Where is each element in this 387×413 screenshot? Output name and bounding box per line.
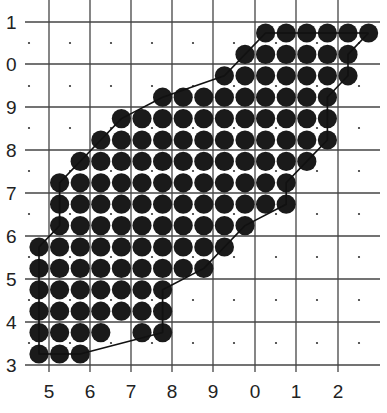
cell-center-dot — [151, 85, 153, 87]
filled-circle — [91, 195, 110, 214]
filled-circle — [235, 88, 254, 107]
y-axis-label: 8 — [6, 140, 17, 161]
cell-center-dot — [275, 85, 277, 87]
filled-circle — [91, 302, 110, 321]
filled-circle — [50, 237, 69, 256]
cell-center-dot — [275, 256, 277, 258]
cell-center-dot — [358, 127, 360, 129]
y-axis-label: 4 — [6, 312, 17, 333]
cell-center-dot — [358, 85, 360, 87]
filled-circle — [132, 152, 151, 171]
cell-center-dot — [316, 299, 318, 301]
y-axis-label: 6 — [6, 226, 17, 247]
cell-center-dot — [69, 213, 71, 215]
cell-center-dot — [316, 213, 318, 215]
cell-center-dot — [358, 213, 360, 215]
cell-center-dot — [316, 342, 318, 344]
filled-circle — [277, 66, 296, 85]
filled-circle — [174, 173, 193, 192]
filled-circle — [194, 195, 213, 214]
filled-circle — [194, 88, 213, 107]
filled-circle — [153, 237, 172, 256]
y-axis-label: 9 — [6, 97, 17, 118]
y-axis-labels: 109876543 — [6, 12, 17, 376]
cell-center-dot — [275, 127, 277, 129]
filled-circle — [174, 109, 193, 128]
filled-circle — [235, 195, 254, 214]
filled-circle — [91, 152, 110, 171]
cell-center-dot — [110, 342, 112, 344]
cell-center-dot — [316, 85, 318, 87]
filled-circle — [71, 323, 90, 342]
x-axis-label: 2 — [333, 381, 344, 402]
filled-circle — [112, 302, 131, 321]
cell-center-dot — [69, 85, 71, 87]
cell-center-dot — [28, 299, 30, 301]
cell-center-dot — [233, 85, 235, 87]
x-axis-label: 9 — [208, 381, 219, 402]
cell-center-dot — [316, 256, 318, 258]
cell-center-dot — [151, 170, 153, 172]
cell-center-dot — [69, 42, 71, 44]
filled-circle — [194, 109, 213, 128]
filled-circle — [71, 280, 90, 299]
filled-circle — [132, 280, 151, 299]
filled-circle — [50, 323, 69, 342]
filled-circle — [71, 173, 90, 192]
cell-center-dot — [275, 213, 277, 215]
filled-circle — [194, 237, 213, 256]
x-axis-label: 7 — [126, 381, 137, 402]
y-axis-label: 3 — [6, 355, 17, 376]
y-axis-label: 1 — [6, 12, 17, 33]
cell-center-dot — [233, 213, 235, 215]
filled-circle — [50, 280, 69, 299]
cell-center-dot — [110, 256, 112, 258]
filled-circle — [153, 216, 172, 235]
cell-center-dot — [275, 299, 277, 301]
filled-circle — [91, 216, 110, 235]
filled-circle — [194, 152, 213, 171]
filled-circle — [153, 152, 172, 171]
filled-circle — [194, 216, 213, 235]
cell-center-dot — [28, 170, 30, 172]
filled-circle — [277, 152, 296, 171]
filled-circle — [132, 173, 151, 192]
filled-circle — [215, 88, 234, 107]
filled-circle — [71, 216, 90, 235]
filled-circle — [174, 216, 193, 235]
cell-center-dot — [151, 256, 153, 258]
cell-center-dot — [110, 42, 112, 44]
filled-circle — [194, 130, 213, 149]
filled-circle — [277, 130, 296, 149]
filled-circle — [112, 259, 131, 278]
x-axis-label: 1 — [291, 381, 302, 402]
x-axis-labels: 56789012 — [44, 381, 344, 402]
filled-circle — [50, 302, 69, 321]
cell-center-dot — [110, 213, 112, 215]
cell-center-dot — [69, 256, 71, 258]
cell-center-dot — [233, 170, 235, 172]
cell-center-dot — [28, 342, 30, 344]
cell-center-dot — [316, 170, 318, 172]
filled-circle — [256, 109, 275, 128]
filled-circle — [91, 173, 110, 192]
filled-circle — [174, 152, 193, 171]
cell-center-dot — [233, 42, 235, 44]
cell-center-dot — [358, 299, 360, 301]
filled-circle — [132, 130, 151, 149]
filled-circle — [297, 45, 316, 64]
filled-circle — [256, 66, 275, 85]
filled-circle — [277, 45, 296, 64]
cell-center-dot — [233, 127, 235, 129]
cell-center-dot — [358, 170, 360, 172]
y-axis-label: 5 — [6, 269, 17, 290]
filled-circle — [235, 173, 254, 192]
filled-circle — [112, 173, 131, 192]
cell-center-dot — [69, 342, 71, 344]
cell-center-dot — [233, 256, 235, 258]
cell-center-dot — [151, 42, 153, 44]
filled-circle — [132, 216, 151, 235]
cell-center-dot — [110, 299, 112, 301]
filled-circle — [112, 237, 131, 256]
filled-circle — [91, 280, 110, 299]
